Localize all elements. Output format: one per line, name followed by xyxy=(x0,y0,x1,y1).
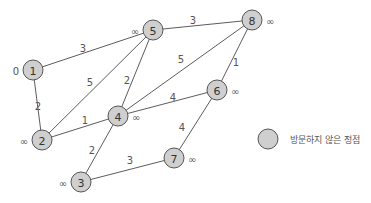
edge-weight-6-7: 4 xyxy=(179,122,185,133)
node-1: 10 xyxy=(13,60,43,80)
edge-weight-4-8: 5 xyxy=(178,54,184,65)
edge-weight-1-5: 3 xyxy=(80,43,86,54)
node-label: 1 xyxy=(30,65,37,78)
edge-weight-3-4: 2 xyxy=(89,145,95,156)
edge-weight-1-2: 2 xyxy=(35,101,41,112)
legend-unvisited-node-icon xyxy=(258,129,278,149)
node-3: 3∞ xyxy=(59,172,91,192)
edge-weight-4-5: 2 xyxy=(124,75,130,86)
edge-6-8 xyxy=(217,20,252,90)
node-4: 4∞ xyxy=(108,106,140,126)
node-label: 8 xyxy=(249,15,256,28)
node-distance-label: 0 xyxy=(13,66,19,77)
node-6: 6∞ xyxy=(207,80,239,100)
edge-weight-5-8: 3 xyxy=(190,15,196,26)
edges-layer xyxy=(33,20,252,182)
edge-weight-4-6: 4 xyxy=(170,92,176,103)
node-5: 5∞ xyxy=(131,20,163,40)
node-label: 7 xyxy=(171,153,178,166)
node-distance-label: ∞ xyxy=(20,136,28,147)
edge-weight-3-7: 3 xyxy=(127,155,133,166)
node-distance-label: ∞ xyxy=(266,16,274,27)
node-label: 3 xyxy=(78,177,85,190)
node-distance-label: ∞ xyxy=(59,178,67,189)
node-label: 5 xyxy=(150,25,157,38)
node-label: 6 xyxy=(214,85,221,98)
node-distance-label: ∞ xyxy=(231,86,239,97)
nodes-layer: 102∞3∞4∞5∞6∞7∞8∞ xyxy=(13,10,275,192)
node-label: 2 xyxy=(39,135,46,148)
legend: 방문하지 않은 정점 xyxy=(258,129,360,149)
node-7: 7∞ xyxy=(164,148,196,168)
node-distance-label: ∞ xyxy=(131,26,139,37)
edge-weight-2-5: 5 xyxy=(87,77,93,88)
node-2: 2∞ xyxy=(20,130,52,150)
node-8: 8∞ xyxy=(242,10,274,30)
edge-weight-6-8: 1 xyxy=(233,57,239,68)
node-distance-label: ∞ xyxy=(132,112,140,123)
edge-5-8 xyxy=(153,20,252,30)
node-distance-label: ∞ xyxy=(188,154,196,165)
graph-diagram: 325125431234 102∞3∞4∞5∞6∞7∞8∞ 방문하지 않은 정점 xyxy=(0,0,371,203)
edge-weight-2-4: 1 xyxy=(82,115,88,126)
edge-2-5 xyxy=(42,30,153,140)
node-label: 4 xyxy=(115,111,122,124)
legend-unvisited-label: 방문하지 않은 정점 xyxy=(290,134,360,145)
